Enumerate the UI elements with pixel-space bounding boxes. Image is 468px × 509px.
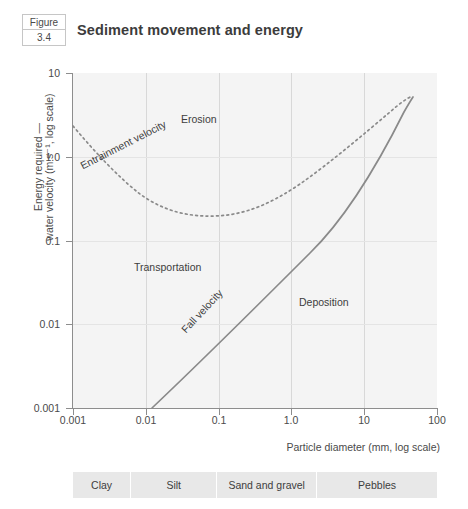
grain-size-scale-bar: Clay Silt Sand and gravel Pebbles (73, 472, 437, 498)
grain-size-cell-sand-and-gravel: Sand and gravel (217, 472, 317, 498)
entrainment-velocity-curve (73, 96, 412, 216)
chart-area: 10 1.0 0.1 0.01 0.001 0.001 0.01 0.1 1.0… (0, 0, 468, 509)
grain-size-cell-clay: Clay (73, 472, 131, 498)
region-label-erosion: Erosion (181, 113, 217, 125)
fall-velocity-curve (152, 97, 413, 408)
curve-svg (0, 0, 468, 509)
grain-size-cell-pebbles: Pebbles (317, 472, 437, 498)
region-label-deposition: Deposition (299, 296, 349, 308)
grain-size-cell-silt: Silt (131, 472, 217, 498)
region-label-transportation: Transportation (134, 261, 201, 273)
